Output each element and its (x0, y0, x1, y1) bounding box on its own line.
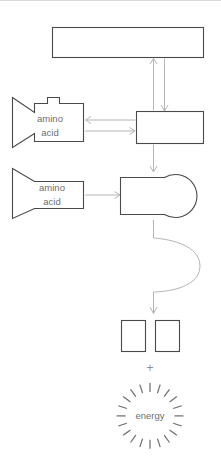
arrow-down-to-middle-box (161, 59, 168, 112)
arrow-up-top-bar (150, 59, 157, 111)
ribosome-shape (121, 174, 197, 217)
diagram-canvas: amino acid amino acid + energy (0, 0, 221, 468)
arrow-right-trna-lower-to-ribosome (85, 192, 120, 199)
trna-lower-label-line2: acid (43, 196, 60, 207)
trna-upper-label-line1: amino (37, 113, 63, 124)
trna-lower-label-line1: amino (39, 182, 65, 193)
arrow-left-to-trna-upper (86, 117, 136, 124)
transfer-box (137, 112, 204, 144)
diagram-illustration: amino acid amino acid + energy (0, 0, 221, 468)
product-box-right (156, 321, 180, 352)
arrow-down-middle-box-to-ribosome (150, 145, 157, 173)
arrow-right-to-middle-box (85, 128, 135, 135)
energy-label: energy (135, 410, 164, 421)
trna-upper-label-line2: acid (41, 127, 58, 138)
product-box-left (122, 321, 146, 352)
mrna-strand-bar (53, 28, 204, 58)
curved-arrow-ribosome-to-products (150, 220, 200, 314)
plus-sign-label: + (146, 361, 153, 375)
trna-with-amino-acid-lower (13, 169, 84, 219)
